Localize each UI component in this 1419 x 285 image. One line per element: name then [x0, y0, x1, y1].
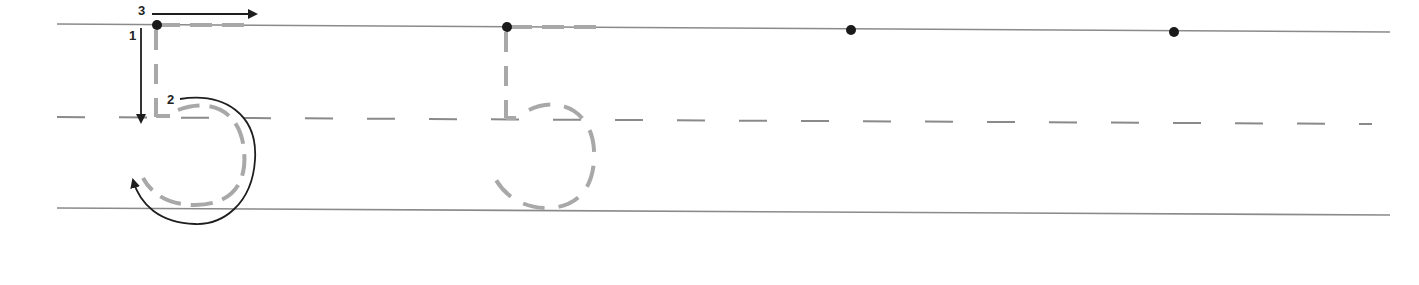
practice-slot-3 — [846, 25, 856, 35]
trace-5-model — [143, 25, 250, 205]
step-label-2: 2 — [167, 92, 174, 107]
midline-dashed — [57, 117, 1372, 124]
step-label-1: 1 — [129, 28, 136, 43]
start-dot — [152, 20, 162, 30]
start-dot — [1169, 27, 1179, 37]
handwriting-worksheet: 1 2 3 — [0, 0, 1419, 285]
start-dot — [502, 22, 512, 32]
practice-slot-4 — [1169, 27, 1179, 37]
trace-5 — [496, 27, 600, 208]
ruled-lines — [57, 24, 1390, 215]
step-label-3: 3 — [138, 3, 145, 18]
top-line — [57, 24, 1390, 32]
model-digit-5: 1 2 3 — [129, 3, 256, 224]
start-dot — [846, 25, 856, 35]
bottom-line — [57, 208, 1390, 215]
trace-digit-5 — [496, 22, 600, 208]
